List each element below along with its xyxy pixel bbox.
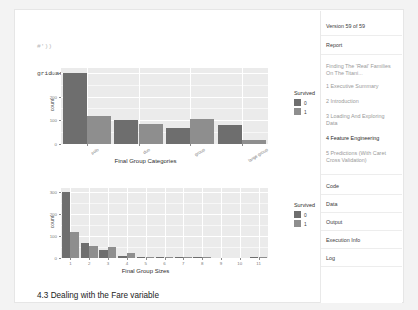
- code-line: #')): [37, 42, 327, 51]
- x-axis-tick-label: 1: [69, 261, 71, 266]
- gridline-vertical: [242, 68, 243, 144]
- sidebar-toc-item-3[interactable]: 3 Loading And Exploring Data: [321, 113, 402, 128]
- y-axis-tick-label: 0: [23, 256, 57, 261]
- chart-bar: [118, 256, 126, 258]
- chart-bar: [259, 257, 267, 258]
- chart-bar: [156, 257, 164, 258]
- chart-bar: [193, 257, 201, 258]
- x-axis-tick-mark: [183, 258, 184, 260]
- sidebar-divider: [321, 194, 402, 195]
- legend-title: Survived: [294, 202, 315, 208]
- chart-bar: [99, 250, 107, 258]
- x-axis-tick-mark: [87, 144, 88, 146]
- y-axis-title: count: [49, 90, 55, 120]
- chart-bar: [127, 253, 135, 258]
- y-axis-tick-mark: [59, 144, 61, 145]
- sidebar-item-code[interactable]: Code: [321, 183, 402, 190]
- y-axis-tick-label: 300: [23, 70, 57, 75]
- gridline-minor: [61, 85, 268, 86]
- x-axis-tick-label: 5: [144, 261, 146, 266]
- x-axis-tick-mark: [190, 144, 191, 146]
- legend-label: 1: [304, 110, 307, 115]
- chart-bar: [108, 247, 116, 258]
- legend-title: Survived: [294, 90, 315, 96]
- x-axis-title: Final Group Categories: [23, 158, 268, 164]
- chart-bar: [242, 140, 266, 145]
- legend-key: [294, 211, 301, 218]
- x-axis-tick-mark: [165, 258, 166, 260]
- sidebar-toc-item-1[interactable]: 1 Executive Summary: [321, 83, 402, 90]
- y-axis-tick-mark: [59, 120, 61, 121]
- sidebar-item-log[interactable]: Log: [321, 255, 402, 262]
- chart-panel: [61, 68, 268, 144]
- gridline-minor: [61, 108, 268, 109]
- chart-bar: [146, 257, 154, 258]
- chart-bar: [202, 257, 210, 258]
- chart-bar: [137, 257, 145, 258]
- chart-bar: [62, 192, 70, 258]
- legend-label: 0: [304, 101, 307, 106]
- x-axis-tick-label: 4: [126, 261, 128, 266]
- sidebar-divider: [321, 248, 402, 249]
- y-axis-tick-label: 0: [23, 142, 57, 147]
- gridline-vertical: [165, 188, 166, 258]
- chart-bar: [218, 125, 242, 144]
- chart-bar: [63, 73, 87, 144]
- gridline-vertical: [259, 188, 260, 258]
- x-axis-tick-mark: [108, 258, 109, 260]
- gridline-vertical: [240, 188, 241, 258]
- x-axis-tick-label: 2: [88, 261, 90, 266]
- sidebar-notebook-title[interactable]: Finding The 'Real' Families On The Titan…: [321, 63, 402, 78]
- x-axis-tick-mark: [127, 258, 128, 260]
- notebook-page-background: #')) grid.arrange(g2, g1) 0100200300coun…: [0, 0, 418, 310]
- gridline-vertical: [146, 188, 147, 258]
- x-axis-tick-mark: [89, 258, 90, 260]
- gridline-vertical: [221, 188, 222, 258]
- x-axis-title: Final Group Sizes: [23, 268, 268, 274]
- chart-panel: [61, 188, 268, 258]
- sidebar-divider: [321, 35, 402, 36]
- sidebar-item-output[interactable]: Output: [321, 219, 402, 226]
- x-axis-tick-label: 6: [163, 261, 165, 266]
- y-axis-tick-mark: [59, 258, 61, 259]
- legend-key: [294, 99, 301, 106]
- sidebar-divider: [321, 174, 402, 175]
- notebook-sidebar: Version 59 of 59 Report Finding The 'Rea…: [320, 11, 402, 303]
- x-axis-tick-mark: [146, 258, 147, 260]
- y-axis-title: count: [49, 207, 55, 237]
- chart-group-sizes: 0100200300count1234567891011Final Group …: [23, 182, 343, 282]
- chart-bar: [165, 257, 173, 258]
- y-axis-tick-mark: [59, 97, 61, 98]
- gridline-major: [61, 144, 268, 145]
- chart-bar: [190, 119, 214, 144]
- y-axis-tick-mark: [59, 192, 61, 193]
- y-axis-tick-mark: [59, 214, 61, 215]
- gridline-major: [61, 97, 268, 98]
- x-axis-tick-label: solo: [90, 147, 99, 156]
- gridline-vertical: [127, 188, 128, 258]
- y-axis-tick-mark: [59, 73, 61, 74]
- sidebar-toc-item-5[interactable]: 5 Predictions (With Caret Cross Validati…: [321, 150, 402, 165]
- chart-bar: [81, 243, 89, 258]
- chart-bar: [114, 120, 138, 144]
- sidebar-item-data[interactable]: Data: [321, 201, 402, 208]
- chart-bar: [89, 246, 97, 258]
- sidebar-divider: [321, 230, 402, 231]
- sidebar-item-execution-info[interactable]: Execution Info: [321, 237, 402, 244]
- chart-bar: [175, 257, 183, 258]
- x-axis-tick-label: 8: [201, 261, 203, 266]
- sidebar-toc-item-2[interactable]: 2 Introduction: [321, 98, 402, 105]
- y-axis-tick-label: 300: [23, 190, 57, 195]
- chart-bar: [70, 232, 78, 258]
- sidebar-divider: [321, 212, 402, 213]
- x-axis-tick-mark: [221, 258, 222, 260]
- sidebar-toc-item-4[interactable]: 4 Feature Engineering: [321, 135, 402, 142]
- legend-label: 1: [304, 222, 307, 227]
- x-axis-tick-label: 3: [107, 261, 109, 266]
- x-axis-tick-label: group: [194, 147, 206, 157]
- sidebar-item-report[interactable]: Report: [321, 42, 402, 49]
- x-axis-tick-label: 7: [182, 261, 184, 266]
- legend-key: [294, 220, 301, 227]
- x-axis-tick-label: duo: [142, 147, 151, 155]
- chart-bar: [183, 257, 191, 258]
